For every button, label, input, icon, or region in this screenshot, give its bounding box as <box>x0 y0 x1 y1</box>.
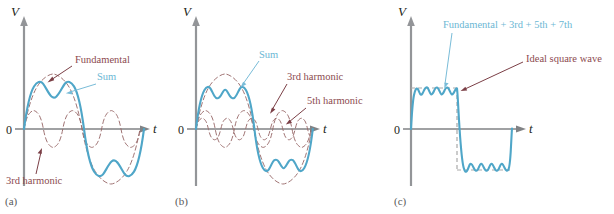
panel-c-origin-label: 0 <box>394 123 400 137</box>
panel-b-arrow-3rd-harmonic <box>270 84 287 114</box>
panel-c: V t 0 Fundamental + 3rd + 5th + 7th <box>395 0 614 214</box>
panel-a-label-sum: Sum <box>97 71 116 82</box>
panel-b-label-3rd-harmonic: 3rd harmonic <box>287 71 344 82</box>
panel-a-arrow-3rd-harmonic <box>36 148 42 174</box>
panel-b-label-sum: Sum <box>259 49 278 60</box>
panel-c-label-fourier-sum: Fundamental + 3rd + 5th + 7th <box>443 19 573 30</box>
panel-a-label-fundamental: Fundamental <box>75 54 130 65</box>
panel-a-y-axis <box>20 16 28 186</box>
panel-a-arrow-sum <box>66 84 96 94</box>
panel-c-plot: V t 0 Fundamental + 3rd + 5th + 7th <box>395 0 614 214</box>
panel-c-y-axis-label: V <box>398 4 408 19</box>
panel-a-x-axis-label: t <box>153 121 157 136</box>
panel-a-plot: V t 0 Fundamental Sum <box>0 0 180 214</box>
panel-a-y-axis-label: V <box>11 4 21 19</box>
panel-b-origin-label: 0 <box>178 123 184 137</box>
fourier-square-wave-figure: V t 0 Fundamental Sum <box>0 0 614 214</box>
panel-a-origin-label: 0 <box>6 123 12 137</box>
panel-c-label-ideal-square-wave: Ideal square wave <box>526 53 602 64</box>
panel-b-caption: (b) <box>175 195 188 208</box>
panel-c-arrow-ideal-square-wave <box>461 62 523 91</box>
panel-b-label-5th-harmonic: 5th harmonic <box>307 95 363 106</box>
panel-c-arrow-fourier-sum <box>444 33 452 88</box>
panel-b-y-axis <box>192 16 200 186</box>
panel-c-caption: (c) <box>394 195 407 208</box>
panel-b-y-axis-label: V <box>183 4 193 19</box>
panel-b-plot: V t 0 Sum 3rd harmonic <box>175 0 365 214</box>
panel-c-x-axis <box>403 125 526 132</box>
panel-c-x-axis-label: t <box>529 121 533 136</box>
panel-a-caption: (a) <box>5 195 18 208</box>
panel-a: V t 0 Fundamental Sum <box>0 0 180 214</box>
panel-a-label-3rd-harmonic: 3rd harmonic <box>6 175 63 186</box>
panel-b-x-axis-label: t <box>323 121 327 136</box>
panel-b-arrow-sum <box>240 61 259 88</box>
panel-b: V t 0 Sum 3rd harmonic <box>175 0 365 214</box>
